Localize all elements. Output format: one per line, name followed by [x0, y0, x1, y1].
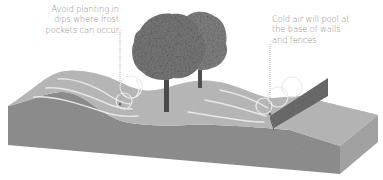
annotation-line: Cold air will pool at [272, 14, 349, 24]
annotation-line: pockets can occur [46, 25, 119, 35]
annotation-cold-air: Cold air will pool at the base of walls … [272, 14, 349, 45]
annotation-frost-pocket: Avoid planting in dips where frost pocke… [46, 4, 119, 35]
annotation-line: dips where frost [46, 14, 119, 24]
annotation-line: Avoid planting in [46, 4, 119, 14]
annotation-line: the base of walls [272, 24, 349, 34]
frost-pocket-diagram: Avoid planting in dips where frost pocke… [0, 0, 383, 180]
annotation-line: and fences [272, 35, 349, 45]
